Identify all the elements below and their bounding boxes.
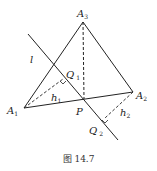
label-line-l: l	[30, 54, 33, 65]
segment-a3-p	[83, 22, 84, 99]
label-a3: A3	[76, 8, 88, 20]
label-h2: h2	[120, 107, 130, 119]
label-q1: Q1	[66, 69, 80, 81]
label-a2: A2	[135, 90, 147, 102]
label-q2: Q2	[89, 125, 103, 137]
line-l	[28, 34, 118, 140]
label-h1: h1	[51, 92, 61, 104]
label-a1: A1	[6, 105, 18, 117]
figure: A3 A1 A2 P Q1 Q2 l h1 h2 图 14.7	[0, 0, 157, 171]
edge-a3-a2	[83, 22, 133, 92]
label-p: P	[75, 106, 83, 117]
figure-caption: 图 14.7	[0, 152, 157, 165]
right-angle-q1-icon	[60, 81, 66, 84]
geometry-diagram: A3 A1 A2 P Q1 Q2 l h1 h2	[0, 0, 157, 171]
